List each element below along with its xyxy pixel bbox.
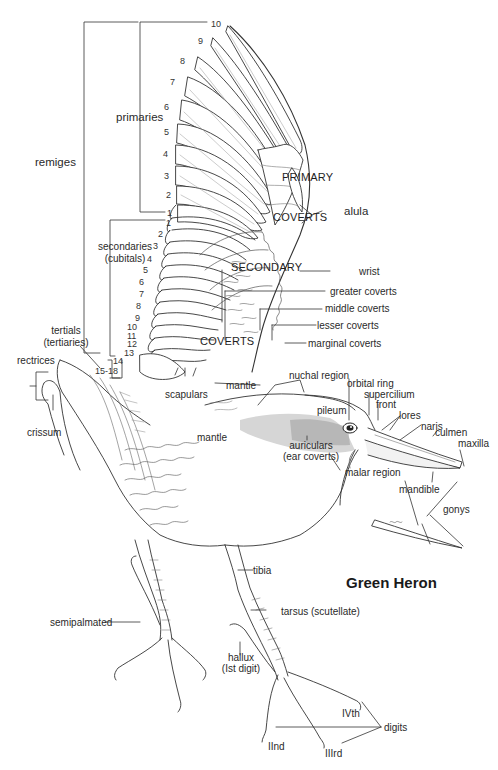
label-culmen: culmen [435, 427, 467, 438]
green-heron-anatomy-diagram: remiges primaries secondaries (cubitals)… [0, 0, 498, 770]
secondary-number: 7 [139, 289, 144, 299]
label-primary-coverts-2: COVERTS [273, 212, 327, 223]
label-mandible: mandible [399, 484, 440, 495]
label-tarsus: tarsus (scutellate) [281, 606, 360, 617]
tertial-range: 15-18 [95, 366, 118, 376]
label-gonys: gonys [443, 504, 470, 515]
primary-number: 7 [170, 77, 175, 87]
secondary-number: 8 [136, 301, 141, 311]
label-nuchal-region: nuchal region [289, 370, 349, 381]
label-digit-iii: IIIrd [325, 748, 342, 759]
label-mantle-lower: mantle [197, 432, 227, 443]
label-orbital-ring: orbital ring [347, 378, 394, 389]
label-hallux-alt: (Ist digit) [213, 663, 269, 674]
label-hallux: hallux [216, 652, 266, 663]
primary-number: 4 [163, 149, 168, 159]
label-digits: digits [384, 722, 407, 733]
secondary-number: 6 [139, 277, 144, 287]
label-secondary-coverts-2: COVERTS [200, 336, 254, 347]
label-rectrices: rectrices [17, 355, 55, 366]
label-secondaries: secondaries [90, 241, 160, 252]
primary-number: 3 [164, 171, 169, 181]
label-wrist: wrist [359, 266, 380, 277]
primary-number: 9 [198, 36, 203, 46]
primary-number: 6 [164, 102, 169, 112]
label-lesser-coverts: lesser coverts [317, 320, 379, 331]
label-remiges: remiges [35, 157, 76, 168]
label-primary-coverts-1: PRIMARY [282, 172, 333, 183]
secondary-number: 3 [153, 241, 158, 251]
primary-number: 2 [166, 190, 171, 200]
label-auriculars: auriculars [276, 440, 346, 451]
secondary-number: 13 [124, 348, 134, 358]
label-greater-coverts: greater coverts [330, 286, 397, 297]
label-marginal-coverts: marginal coverts [308, 338, 381, 349]
label-maxilla: maxilla [458, 438, 489, 449]
label-front: front [376, 399, 396, 410]
label-lores: lores [399, 410, 421, 421]
label-semipalmated: semipalmated [50, 617, 112, 628]
secondary-number: 5 [143, 265, 148, 275]
label-crissum: crissum [27, 427, 61, 438]
label-auriculars-alt: (ear coverts) [276, 451, 346, 462]
label-tertials: tertials [36, 325, 96, 336]
secondary-number: 4 [147, 254, 152, 264]
label-mantle-upper: mantle [226, 380, 256, 391]
primary-number: 10 [211, 19, 221, 29]
label-middle-coverts: middle coverts [325, 303, 389, 314]
label-digit-iv: IVth [342, 708, 360, 719]
label-secondary-coverts-1: SECONDARY [231, 262, 302, 273]
figure-title: Green Heron [346, 574, 437, 591]
secondary-number: 2 [158, 229, 163, 239]
primary-number: 8 [180, 56, 185, 66]
label-pileum: pileum [317, 405, 346, 416]
secondary-number: 1 [166, 218, 171, 228]
label-malar-region: malar region [345, 467, 401, 478]
secondary-number: 14 [113, 356, 123, 366]
label-tibia: tibia [253, 565, 271, 576]
label-scapulars: scapulars [165, 389, 208, 400]
label-tertials-alt: (tertiaries) [36, 337, 96, 348]
primary-number: 1 [167, 208, 172, 218]
label-alula: alula [344, 206, 368, 217]
label-digit-ii: IInd [268, 741, 285, 752]
label-primaries: primaries [116, 112, 163, 123]
primary-number: 5 [164, 127, 169, 137]
legs-drawing [115, 540, 361, 748]
